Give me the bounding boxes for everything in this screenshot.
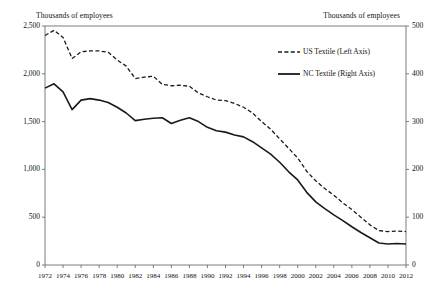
series-line-1 — [45, 30, 406, 231]
left-axis-tick-label: 500 — [29, 212, 40, 221]
series-line-2 — [45, 84, 406, 244]
x-axis-tick-label: 2012 — [394, 272, 418, 280]
legend-swatches — [278, 52, 300, 74]
right-axis-tick-label: 500 — [412, 21, 423, 30]
right-axis-tick-label: 100 — [412, 212, 423, 221]
legend-label-1: US Textile (Left Axis) — [303, 47, 370, 56]
left-axis-tick-label: 1,500 — [23, 117, 40, 126]
right-axis-ticks — [406, 26, 409, 265]
chart-figure: Thousands of employees Thousands of empl… — [0, 0, 437, 295]
left-axis-tick-label: 1,000 — [23, 164, 40, 173]
x-axis-ticks — [45, 265, 406, 268]
data-series-group — [45, 30, 406, 244]
right-axis-tick-label: 0 — [412, 260, 416, 269]
right-axis-tick-label: 300 — [412, 117, 423, 126]
plot-area — [0, 0, 437, 295]
axis-lines — [45, 26, 406, 265]
right-axis-tick-label: 400 — [412, 69, 423, 78]
left-axis-tick-label: 2,000 — [23, 69, 40, 78]
left-axis-tick-label: 2,500 — [23, 21, 40, 30]
legend-label-2: NC Textile (Right Axis) — [303, 69, 375, 78]
left-axis-tick-label: 0 — [36, 260, 40, 269]
right-axis-tick-label: 200 — [412, 164, 423, 173]
